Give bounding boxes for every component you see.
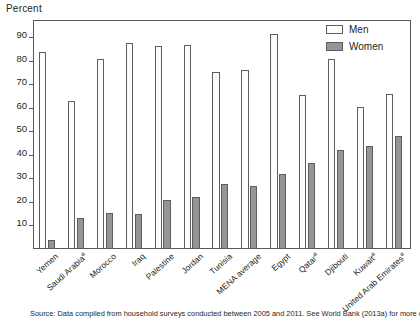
bar-men: [386, 94, 393, 249]
bar-women: [77, 218, 84, 249]
chart-container: Percent 102030405060708090 Men Women Yem…: [0, 0, 420, 321]
x-axis-labels: YemenSaudi ArabiaaMoroccoIraqPalestineJo…: [0, 249, 420, 297]
footnote-marker: a: [311, 251, 317, 258]
bar-women: [337, 150, 344, 249]
bar-group: [121, 21, 150, 249]
bar-group: [294, 21, 323, 249]
x-axis-label-egypt: Egypt: [270, 252, 292, 273]
footnote-marker: a: [80, 251, 86, 258]
x-axis-label-morocco: Morocco: [88, 252, 118, 280]
source-note: Source: Data compiled from household sur…: [30, 309, 414, 318]
bar-men: [184, 45, 191, 249]
bar-men: [155, 46, 162, 249]
bar-women: [163, 200, 170, 249]
y-tick-mark: [29, 202, 33, 203]
x-axis-label-djibouti: Djibouti: [323, 252, 350, 277]
y-tick-mark: [29, 108, 33, 109]
y-tick-mark: [29, 225, 33, 226]
bar-women: [135, 214, 142, 249]
legend-label-men: Men: [349, 25, 368, 35]
legend-swatch-women-icon: [326, 42, 343, 51]
bar-women: [48, 240, 55, 249]
legend-item-women: Women: [326, 39, 408, 54]
bar-men: [126, 43, 133, 249]
bar-group: [63, 21, 92, 249]
y-tick-label: 10: [16, 218, 27, 228]
legend-label-women: Women: [349, 42, 383, 52]
bar-men: [39, 52, 46, 249]
footnote-marker: a: [369, 251, 375, 258]
bar-men: [212, 72, 219, 249]
bar-group: [179, 21, 208, 249]
bar-women: [395, 136, 402, 249]
y-tick-label: 40: [16, 148, 27, 158]
bar-group: [236, 21, 265, 249]
y-tick-mark: [29, 84, 33, 85]
legend-item-men: Men: [326, 22, 408, 37]
bar-group: [265, 21, 294, 249]
x-axis-label-jordan: Jordan: [180, 252, 205, 276]
bar-men: [299, 95, 306, 249]
y-tick-label: 30: [16, 171, 27, 181]
bar-women: [279, 174, 286, 249]
bar-women: [366, 146, 373, 249]
y-axis-title: Percent: [6, 3, 42, 14]
bar-women: [308, 163, 315, 249]
footnote-marker: a: [398, 251, 404, 258]
bar-women: [106, 213, 113, 249]
bar-men: [270, 34, 277, 249]
y-tick-mark: [29, 61, 33, 62]
y-tick-label: 60: [16, 101, 27, 111]
legend-swatch-men-icon: [326, 25, 343, 34]
y-tick-mark: [29, 131, 33, 132]
y-tick-label: 90: [16, 30, 27, 40]
bar-group: [208, 21, 237, 249]
y-tick-mark: [29, 155, 33, 156]
bar-group: [34, 21, 63, 249]
bar-men: [68, 101, 75, 249]
bar-women: [250, 186, 257, 249]
chart-legend: Men Women: [326, 22, 408, 56]
bar-men: [328, 59, 335, 249]
y-tick-label: 20: [16, 195, 27, 205]
y-tick-label: 70: [16, 77, 27, 87]
bar-women: [192, 197, 199, 249]
bar-group: [92, 21, 121, 249]
bar-men: [357, 107, 364, 249]
y-tick-label: 50: [16, 124, 27, 134]
y-tick-label: 80: [16, 54, 27, 64]
x-axis-label-iraq: Iraq: [130, 252, 147, 268]
x-axis-label-tunisia: Tunisia: [208, 252, 234, 277]
bar-women: [221, 184, 228, 249]
bar-men: [241, 70, 248, 249]
x-axis-label-palestine: Palestine: [145, 252, 177, 282]
x-axis-label-qatar: Qatara: [297, 252, 321, 275]
bar-group: [150, 21, 179, 249]
x-axis-label-yemen: Yemen: [35, 252, 60, 276]
y-tick-mark: [29, 178, 33, 179]
bar-men: [97, 59, 104, 249]
y-tick-mark: [29, 37, 33, 38]
